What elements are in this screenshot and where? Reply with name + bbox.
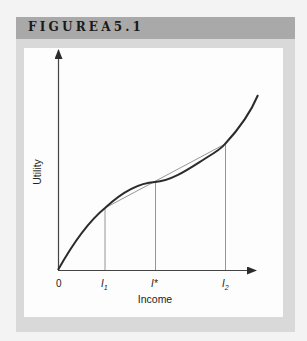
x-tick-istar: I* [151,278,159,289]
utility-curve [58,95,258,270]
x-tick-origin: 0 [56,278,62,289]
x-tick-i2: I2 [222,278,229,291]
chart-svg: 0 I1 I* I2 Income Utility [0,0,307,341]
y-axis-title: Utility [31,158,43,184]
chord-line [105,144,225,208]
x-axis-title: Income [138,293,173,305]
x-tick-i1: I1 [101,278,108,291]
